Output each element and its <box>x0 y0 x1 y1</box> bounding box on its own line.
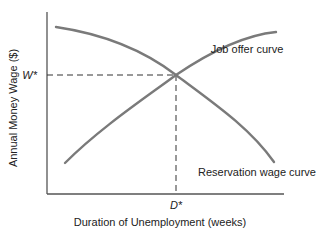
job-offer-curve-label: Job offer curve <box>211 43 284 55</box>
reservation-wage-curve-label: Reservation wage curve <box>198 166 316 178</box>
w-star-label: W* <box>22 69 37 81</box>
y-axis-label: Annual Money Wage ($) <box>7 49 19 167</box>
x-axis-label: Duration of Unemployment (weeks) <box>74 216 246 228</box>
chart: W* D* Job offer curve Reservation wage c… <box>0 0 322 236</box>
d-star-label: D* <box>170 199 183 211</box>
